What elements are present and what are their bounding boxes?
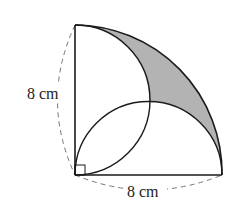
bottom-side-label: 8 cm bbox=[127, 183, 159, 200]
shaded-region bbox=[75, 25, 222, 175]
right-angle-marker bbox=[75, 165, 85, 175]
geometry-diagram: 8 cm 8 cm bbox=[0, 0, 234, 213]
left-side-label: 8 cm bbox=[27, 85, 59, 102]
